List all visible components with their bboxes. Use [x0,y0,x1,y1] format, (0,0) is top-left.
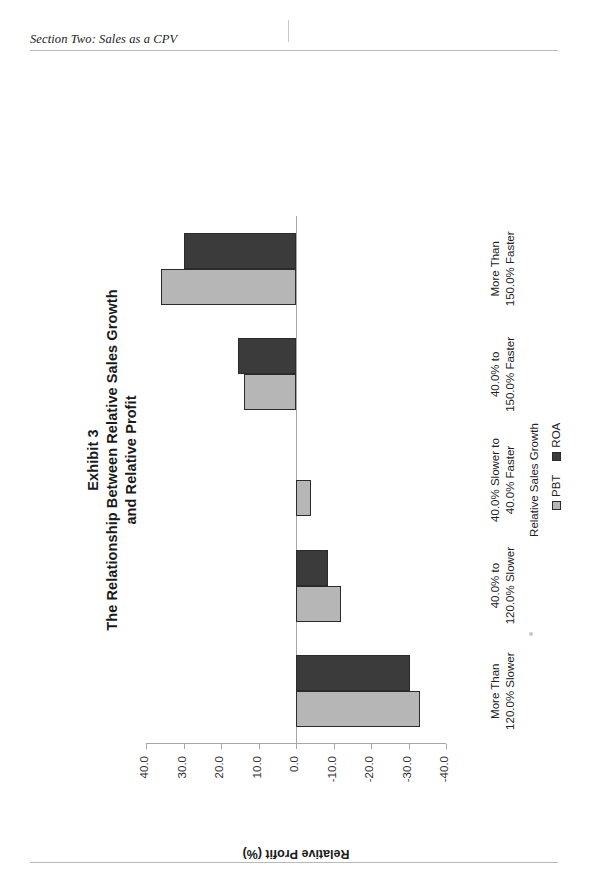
value-axis-tick-label: -30.0 [401,756,413,806]
footer-rule [30,862,558,863]
value-axis-title: Relative Profit (%) [243,847,350,861]
bar-pbt [296,691,420,727]
figure-rotated-wrapper: Exhibit 3 The Relationship Between Relat… [80,80,510,840]
document-page: Section Two: Sales as a CPV Exhibit 3 Th… [0,0,589,889]
bar-roa [238,338,296,374]
plot-area: 40.030.020.010.00.0-10.0-20.0-30.0-40.0 [146,216,446,744]
crop-mark [288,20,289,42]
category-axis-label: More Than150.0% Faster [488,199,517,339]
value-axis-tick [184,744,185,749]
value-axis-tick-label: 20.0 [213,756,225,806]
category-axis-title: Relative Sales Growth [528,120,540,840]
bar-pbt [296,586,341,622]
category-label-line: 150.0% Faster [503,199,518,339]
value-axis-tick-label: 30.0 [176,756,188,806]
value-axis-tick-label: -10.0 [326,756,338,806]
value-axis-tick-label: 40.0 [138,756,150,806]
running-head: Section Two: Sales as a CPV [30,32,450,47]
value-axis-tick-label: -20.0 [363,756,375,806]
exhibit-label: Exhibit 3 [84,80,103,840]
value-axis-tick-label: 0.0 [288,756,300,806]
bar-pbt [296,480,311,516]
bar-roa [296,550,328,586]
legend-item[interactable]: ROA [550,423,562,461]
value-axis-tick [296,744,297,749]
value-axis-tick-label: -40.0 [438,756,450,806]
legend-label-roa: ROA [550,423,562,448]
legend-swatch-pbt [552,501,561,510]
value-axis-tick-label: 10.0 [251,756,263,806]
chart-legend: PBTROA [550,423,562,510]
bar-chart: Exhibit 3 The Relationship Between Relat… [80,80,510,840]
value-axis-tick [409,744,410,749]
legend-label-pbt: PBT [550,475,562,497]
bar-pbt [244,374,297,410]
figure-title: Exhibit 3 The Relationship Between Relat… [84,80,141,840]
figure-title-line-2: and Relative Profit [122,80,141,840]
value-axis-tick [446,744,447,749]
value-axis-tick [221,744,222,749]
value-axis-tick [146,744,147,749]
bar-roa [184,233,297,269]
figure-title-line-1: The Relationship Between Relative Sales … [103,80,122,840]
value-axis-tick [334,744,335,749]
value-axis-tick [259,744,260,749]
bar-pbt [161,269,296,305]
category-label-line: More Than [488,199,503,339]
value-axis-tick [371,744,372,749]
legend-swatch-roa [552,452,561,461]
bar-roa [296,655,410,691]
header-rule [30,50,558,51]
legend-item[interactable]: PBT [550,475,562,510]
